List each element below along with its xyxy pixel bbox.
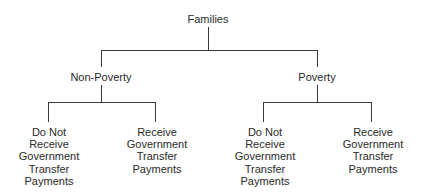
- connector-non-poverty-stem: [101, 85, 102, 102]
- leaf-line: Payments: [333, 163, 413, 175]
- node-non-poverty: Non-Poverty: [70, 71, 131, 83]
- connector-to-p-do-not-receive: [263, 102, 264, 122]
- leaf-line: Payments: [117, 163, 197, 175]
- leaf-line: Transfer: [117, 150, 197, 162]
- connector-level1-bar: [101, 50, 318, 51]
- leaf-line: Government: [225, 150, 305, 162]
- node-p-receive-transfers: Receive Government Transfer Payments: [333, 126, 413, 175]
- leaf-line: Receive: [333, 126, 413, 138]
- connector-poverty-stem: [317, 85, 318, 102]
- node-families: Families: [188, 13, 229, 25]
- connector-to-np-receive: [155, 102, 156, 122]
- node-p-do-not-receive-transfers: Do Not Receive Government Transfer Payme…: [225, 126, 305, 187]
- connector-poverty-bar: [263, 102, 372, 103]
- leaf-line: Payments: [9, 175, 89, 187]
- leaf-line: Transfer: [333, 150, 413, 162]
- connector-to-np-do-not-receive: [48, 102, 49, 122]
- leaf-line: Transfer: [225, 163, 305, 175]
- leaf-line: Receive: [9, 138, 89, 150]
- connector-families-stem: [208, 27, 209, 50]
- leaf-line: Receive: [225, 138, 305, 150]
- leaf-line: Receive: [117, 126, 197, 138]
- node-np-do-not-receive-transfers: Do Not Receive Government Transfer Payme…: [9, 126, 89, 187]
- connector-to-non-poverty: [101, 50, 102, 67]
- leaf-line: Do Not: [9, 126, 89, 138]
- leaf-line: Transfer: [9, 163, 89, 175]
- leaf-line: Government: [333, 138, 413, 150]
- leaf-line: Do Not: [225, 126, 305, 138]
- leaf-line: Payments: [225, 175, 305, 187]
- leaf-line: Government: [117, 138, 197, 150]
- connector-to-poverty: [317, 50, 318, 67]
- connector-to-p-receive: [371, 102, 372, 122]
- connector-non-poverty-bar: [48, 102, 156, 103]
- node-np-receive-transfers: Receive Government Transfer Payments: [117, 126, 197, 175]
- node-poverty: Poverty: [298, 71, 335, 83]
- leaf-line: Government: [9, 150, 89, 162]
